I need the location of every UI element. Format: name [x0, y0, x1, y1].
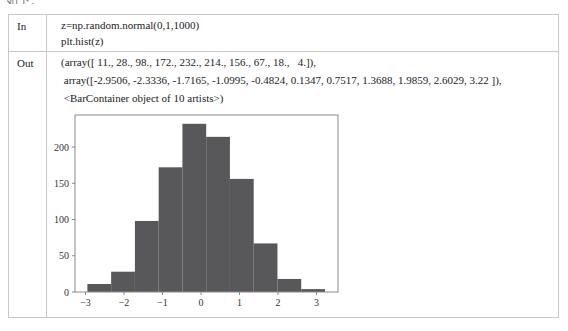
y-tick-label: 50 — [59, 250, 69, 261]
histogram-bar — [206, 137, 230, 292]
y-tick-label: 150 — [54, 178, 69, 189]
histogram-bar — [87, 284, 111, 292]
histogram-bar — [230, 179, 254, 292]
histogram-bar — [111, 272, 135, 292]
y-tick-label: 100 — [54, 214, 69, 225]
histogram-bar — [277, 279, 301, 292]
y-axis-ticks: 050100150200 — [54, 142, 75, 298]
histogram-bar — [135, 221, 159, 292]
histogram-bar — [182, 124, 206, 292]
x-axis-ticks: −3−2−10123 — [80, 292, 319, 308]
x-tick-label: −1 — [157, 297, 168, 308]
x-tick-label: 0 — [199, 297, 204, 308]
histogram-bars — [87, 124, 325, 292]
histogram-chart: −3−2−10123 050100150200 — [0, 0, 568, 331]
x-tick-label: 1 — [237, 297, 242, 308]
y-tick-label: 200 — [54, 142, 69, 153]
x-tick-label: −3 — [80, 297, 91, 308]
histogram-bar — [254, 243, 278, 292]
x-tick-label: 3 — [314, 297, 319, 308]
y-tick-label: 0 — [64, 287, 69, 298]
x-tick-label: 2 — [276, 297, 281, 308]
x-tick-label: −2 — [119, 297, 130, 308]
histogram-bar — [159, 167, 183, 292]
